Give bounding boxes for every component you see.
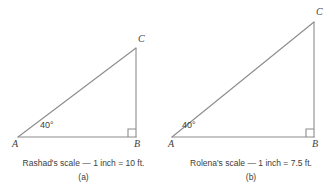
- sublabel-a: (a): [0, 172, 167, 182]
- angle-label-a: 40°: [40, 121, 54, 130]
- angle-label-b: 40°: [182, 121, 196, 130]
- vertex-label-b-A: A: [168, 139, 174, 149]
- caption-b: Rolena's scale — 1 inch = 7.5 ft.: [167, 158, 335, 168]
- triangle-a-hypotenuse: [18, 48, 136, 137]
- right-angle-marker-b: [306, 129, 314, 137]
- caption-a: Rashad's scale — 1 inch = 10 ft.: [0, 158, 167, 168]
- vertex-label-a-C: C: [138, 34, 145, 44]
- figure-container: A B C 40° Rashad's scale — 1 inch = 10 f…: [0, 0, 335, 195]
- vertex-label-a-A: A: [12, 139, 18, 149]
- vertex-label-a-B: B: [134, 139, 140, 149]
- triangle-diagram-a: [0, 0, 167, 155]
- vertex-label-b-B: B: [312, 139, 318, 149]
- figure-panel-b: A B C 40° Rolena's scale — 1 inch = 7.5 …: [167, 0, 335, 195]
- sublabel-b: (b): [167, 172, 335, 182]
- vertex-label-b-C: C: [316, 7, 323, 17]
- right-angle-marker-a: [128, 129, 136, 137]
- figure-panel-a: A B C 40° Rashad's scale — 1 inch = 10 f…: [0, 0, 167, 195]
- triangle-diagram-b: [167, 0, 335, 155]
